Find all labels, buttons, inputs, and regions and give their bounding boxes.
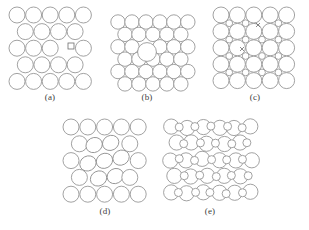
cation-circle: [226, 53, 233, 60]
small-atom-circle: [196, 139, 204, 147]
panel-a-lattice: [8, 6, 92, 90]
small-atom-circle: [175, 155, 183, 163]
atom-circle: [51, 24, 67, 40]
atom-circle: [42, 73, 58, 89]
cation-circle: [226, 20, 233, 27]
panel-d-label: (d): [62, 206, 148, 216]
atom-circle: [122, 169, 138, 185]
small-atom-circle: [191, 123, 199, 131]
atom-circle: [130, 153, 146, 169]
atom-circle: [9, 7, 25, 23]
small-atom-circle: [228, 140, 236, 148]
panel-b-lattice: [110, 14, 184, 90]
cation-circle: [275, 36, 282, 43]
atom-circle: [59, 73, 75, 89]
small-atom-circle: [238, 155, 246, 163]
small-atom-circle: [212, 173, 220, 181]
small-atom-circle: [224, 122, 232, 130]
distorted-atom-ellipse: [88, 168, 110, 189]
atom-circle: [132, 77, 146, 91]
atom-circle: [174, 27, 188, 41]
small-atom-circle: [223, 156, 231, 164]
small-atom-circle: [222, 190, 230, 198]
cation-circle: [242, 69, 249, 76]
cation-circle: [226, 36, 233, 43]
atom-circle: [71, 169, 87, 185]
panel-c-lattice: [212, 6, 298, 90]
atom-circle: [174, 77, 188, 91]
atom-circle: [118, 27, 132, 41]
panel-e-label: (e): [162, 206, 258, 216]
atom-circle: [75, 7, 91, 23]
cation-circle: [259, 53, 266, 60]
atom-circle: [174, 52, 188, 66]
atom-circle: [51, 57, 67, 73]
atom-circle: [146, 77, 160, 91]
small-atom-circle: [175, 123, 183, 131]
small-atom-circle: [211, 139, 219, 147]
panel-e-lattice: [162, 118, 258, 204]
cation-circle: [259, 69, 266, 76]
atom-circle: [130, 186, 146, 202]
atom-circle: [71, 136, 87, 152]
small-atom-circle: [208, 156, 216, 164]
cation-circle: [275, 69, 282, 76]
small-atom-circle: [180, 172, 188, 180]
atom-circle: [59, 7, 75, 23]
panel-d-lattice: [62, 118, 148, 204]
atom-circle: [67, 57, 83, 73]
atom-circle: [9, 73, 25, 89]
atom-circle: [97, 186, 113, 202]
atom-circle: [146, 27, 160, 41]
atom-circle: [132, 27, 146, 41]
atom-circle: [97, 119, 113, 135]
atom-circle: [26, 73, 42, 89]
atom-circle: [34, 57, 50, 73]
atom-circle: [113, 119, 129, 135]
cation-circle: [259, 36, 266, 43]
atom-circle: [26, 40, 42, 56]
atom-circle: [122, 136, 138, 152]
panel-c-label: (c): [212, 92, 298, 102]
atom-circle: [75, 40, 91, 56]
atom-circle: [80, 119, 96, 135]
atom-circle: [17, 24, 33, 40]
small-atom-circle: [244, 172, 252, 180]
atom-circle: [42, 40, 58, 56]
atom-circle: [34, 24, 50, 40]
distorted-atom-ellipse: [83, 135, 105, 156]
atom-circle: [160, 77, 174, 91]
atom-circle: [118, 77, 132, 91]
atom-circle: [160, 27, 174, 41]
distorted-atom-ellipse: [100, 132, 122, 153]
panel-a-label: (a): [8, 92, 92, 102]
distorted-atom-ellipse: [94, 150, 116, 171]
cation-circle: [226, 69, 233, 76]
small-atom-circle: [196, 171, 204, 179]
panel-b-label: (b): [110, 92, 184, 102]
atom-circle: [9, 40, 25, 56]
cation-circle: [275, 53, 282, 60]
atom-circle: [75, 73, 91, 89]
small-atom-circle: [191, 156, 199, 164]
atom-circle: [42, 7, 58, 23]
cation-circle: [242, 36, 249, 43]
panel-e: (e): [162, 118, 258, 220]
figure-root: (a) (b) (c) (d) (e): [0, 0, 309, 230]
atom-circle: [80, 186, 96, 202]
large-atom-circle: [167, 168, 182, 183]
atom-circle: [63, 153, 79, 169]
substitutional-atom-circle: [138, 43, 157, 62]
atom-circle: [113, 186, 129, 202]
atom-circle: [118, 52, 132, 66]
small-atom-circle: [192, 188, 200, 196]
atom-circle: [17, 57, 33, 73]
small-atom-circle: [207, 122, 215, 130]
atom-circle: [26, 7, 42, 23]
panel-a: (a): [8, 6, 92, 106]
small-atom-circle: [239, 189, 247, 197]
cation-circle: [242, 20, 249, 27]
panel-b: (b): [110, 14, 184, 106]
vacancy-square-marker: [68, 43, 74, 49]
atom-circle: [63, 119, 79, 135]
